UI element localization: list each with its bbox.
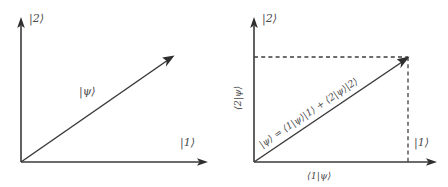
x-projection-label: ⟨1|ψ⟩: [307, 170, 331, 182]
right-vector-equation-label: |ψ⟩ = ⟨1|ψ⟩|1⟩ + ⟨2|ψ⟩|2⟩: [257, 75, 360, 150]
right-panel: |2⟩ |1⟩ ⟨2|ψ⟩ ⟨1|ψ⟩ |ψ⟩ = ⟨1|ψ⟩|1⟩ + ⟨2|…: [0, 0, 448, 187]
quantum-state-vector-figure: |2⟩ |1⟩ |ψ⟩ |2⟩ |1⟩ ⟨2|ψ⟩ ⟨1|ψ⟩ |ψ⟩ = ⟨1…: [0, 0, 448, 187]
right-x-axis-label: |1⟩: [414, 136, 429, 150]
right-y-axis-label: |2⟩: [262, 12, 277, 26]
y-projection-label: ⟨2|ψ⟩: [232, 86, 244, 110]
right-state-vector: [254, 62, 402, 162]
